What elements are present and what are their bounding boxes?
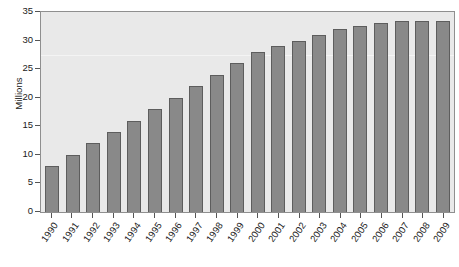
x-axis-label-slot: 2003 bbox=[313, 218, 327, 267]
y-axis-tick: 35 bbox=[0, 11, 40, 12]
y-axis-tick-label: 15 bbox=[22, 119, 33, 130]
x-axis-tick-label: 1993 bbox=[101, 220, 122, 244]
x-axis-label-slot: 1995 bbox=[148, 218, 162, 267]
x-axis-label-slot: 2004 bbox=[333, 218, 347, 267]
x-axis-tick-label: 1992 bbox=[80, 220, 101, 244]
y-axis-tick: 0 bbox=[0, 211, 40, 212]
x-axis-tick-label: 1991 bbox=[60, 220, 81, 244]
x-axis-tick-label: 1997 bbox=[183, 220, 204, 244]
x-axis-tick-label: 2008 bbox=[410, 220, 431, 244]
bar bbox=[127, 121, 141, 212]
x-axis-label-slot: 2002 bbox=[292, 218, 306, 267]
bar bbox=[436, 21, 450, 212]
x-axis-label-slot: 1999 bbox=[230, 218, 244, 267]
y-axis-tick-label: 30 bbox=[22, 34, 33, 45]
x-axis-tick-label: 1994 bbox=[122, 220, 143, 244]
bar bbox=[251, 52, 265, 212]
bar bbox=[395, 21, 409, 212]
bar bbox=[292, 41, 306, 212]
x-axis-label-slot: 1992 bbox=[86, 218, 100, 267]
x-axis-label-slot: 2006 bbox=[375, 218, 389, 267]
y-axis-tick-label: 0 bbox=[28, 205, 33, 216]
y-axis-tick: 25 bbox=[0, 68, 40, 69]
x-axis-label-slot: 1993 bbox=[106, 218, 120, 267]
x-axis: 1990199119921993199419951996199719981999… bbox=[40, 213, 455, 267]
x-axis-label-slot: 1997 bbox=[189, 218, 203, 267]
x-axis-tick-label: 2009 bbox=[431, 220, 452, 244]
x-axis-label-slot: 2005 bbox=[354, 218, 368, 267]
y-axis: 05101520253035 bbox=[0, 0, 40, 220]
x-axis-label-slot: 2001 bbox=[271, 218, 285, 267]
y-axis-tick-label: 35 bbox=[22, 5, 33, 16]
x-axis-label-slot: 1994 bbox=[127, 218, 141, 267]
x-axis-tick-label: 1990 bbox=[39, 220, 60, 244]
bar-series bbox=[41, 12, 454, 212]
x-axis-tick-label: 2004 bbox=[328, 220, 349, 244]
y-axis-tick-label: 20 bbox=[22, 91, 33, 102]
y-axis-tick: 20 bbox=[0, 97, 40, 98]
bar bbox=[230, 63, 244, 212]
x-axis-tick-label: 2005 bbox=[349, 220, 370, 244]
bar bbox=[333, 29, 347, 212]
bar bbox=[312, 35, 326, 212]
x-axis-tick-label: 1998 bbox=[204, 220, 225, 244]
y-axis-tick-label: 5 bbox=[28, 176, 33, 187]
x-axis-tick-label: 2002 bbox=[287, 220, 308, 244]
bar bbox=[210, 75, 224, 212]
x-axis-tick-label: 2007 bbox=[390, 220, 411, 244]
y-axis-tick-label: 25 bbox=[22, 62, 33, 73]
x-axis-tick-label: 2003 bbox=[307, 220, 328, 244]
x-axis-label-slot: 2008 bbox=[416, 218, 430, 267]
x-axis-labels: 1990199119921993199419951996199719981999… bbox=[40, 218, 455, 267]
x-axis-tick-label: 1996 bbox=[163, 220, 184, 244]
x-axis-label-slot: 1996 bbox=[168, 218, 182, 267]
x-axis-tick-label: 2001 bbox=[266, 220, 287, 244]
x-axis-tick-label: 1995 bbox=[142, 220, 163, 244]
bar bbox=[66, 155, 80, 212]
y-axis-tick: 5 bbox=[0, 182, 40, 183]
y-axis-tick-label: 10 bbox=[22, 148, 33, 159]
y-axis-tick: 10 bbox=[0, 154, 40, 155]
x-axis-label-slot: 2009 bbox=[436, 218, 450, 267]
bar bbox=[148, 109, 162, 212]
bar bbox=[86, 143, 100, 212]
bar bbox=[271, 46, 285, 212]
x-axis-label-slot: 1990 bbox=[44, 218, 58, 267]
x-axis-label-slot: 1998 bbox=[209, 218, 223, 267]
bar bbox=[169, 98, 183, 212]
bar bbox=[415, 21, 429, 212]
bar bbox=[374, 23, 388, 212]
x-axis-label-slot: 2007 bbox=[395, 218, 409, 267]
bar bbox=[45, 166, 59, 212]
bar bbox=[107, 132, 121, 212]
plot-area bbox=[40, 11, 455, 213]
y-axis-tick: 15 bbox=[0, 125, 40, 126]
x-axis-tick-label: 1999 bbox=[225, 220, 246, 244]
x-axis-label-slot: 1991 bbox=[65, 218, 79, 267]
x-axis-tick-label: 2006 bbox=[369, 220, 390, 244]
x-axis-tick-label: 2000 bbox=[245, 220, 266, 244]
y-axis-tick: 30 bbox=[0, 40, 40, 41]
bar-chart: Millions 05101520253035 1990199119921993… bbox=[0, 0, 459, 267]
bar bbox=[189, 86, 203, 212]
x-axis-label-slot: 2000 bbox=[251, 218, 265, 267]
bar bbox=[353, 26, 367, 212]
